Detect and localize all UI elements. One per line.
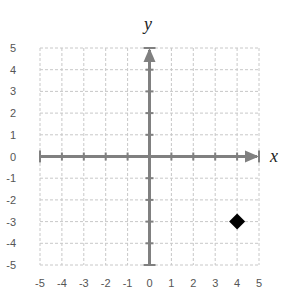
x-tick-label: -5 — [35, 277, 45, 289]
x-tick-label: -1 — [123, 277, 133, 289]
y-tick-label: -4 — [6, 237, 16, 249]
y-axis-arrow-icon — [144, 48, 156, 62]
x-tick-label: -2 — [101, 277, 111, 289]
y-axis-title: y — [142, 14, 152, 34]
y-tick-label: -5 — [6, 259, 16, 271]
y-tick-label: 2 — [10, 107, 16, 119]
y-tick-labels: 543210-1-2-3-4-5 — [6, 42, 16, 271]
y-tick-label: -3 — [6, 216, 16, 228]
axes — [40, 48, 259, 265]
coordinate-plane: -5-4-3-2-1012345 543210-1-2-3-4-5 x y — [0, 0, 292, 308]
diamond-marker-icon — [229, 214, 245, 230]
y-tick-label: 0 — [10, 151, 16, 163]
x-tick-label: 2 — [190, 277, 196, 289]
x-axis-title: x — [269, 146, 278, 166]
x-tick-label: 0 — [146, 277, 152, 289]
y-tick-label: 1 — [10, 129, 16, 141]
x-tick-label: -4 — [57, 277, 67, 289]
x-tick-label: -3 — [79, 277, 89, 289]
x-tick-labels: -5-4-3-2-1012345 — [35, 277, 262, 289]
y-tick-label: -1 — [6, 172, 16, 184]
data-points — [229, 214, 245, 230]
y-tick-label: -2 — [6, 194, 16, 206]
x-tick-label: 4 — [234, 277, 240, 289]
y-tick-label: 3 — [10, 85, 16, 97]
x-tick-label: 1 — [168, 277, 174, 289]
x-tick-label: 5 — [256, 277, 262, 289]
y-tick-label: 4 — [10, 64, 16, 76]
x-axis-arrow-icon — [245, 151, 259, 163]
x-tick-label: 3 — [212, 277, 218, 289]
y-tick-label: 5 — [10, 42, 16, 54]
